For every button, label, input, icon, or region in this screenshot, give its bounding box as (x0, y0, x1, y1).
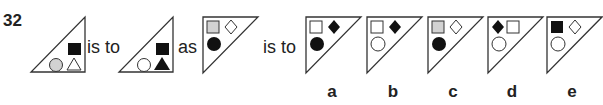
white-square-icon (371, 21, 383, 33)
black-circle-icon (310, 37, 324, 51)
query-figure (202, 16, 259, 74)
option-d-label[interactable]: d (502, 82, 522, 102)
option-e-label[interactable]: e (562, 82, 582, 102)
black-circle-icon (207, 37, 221, 51)
option-c-label[interactable]: c (443, 82, 463, 102)
option-c-figure[interactable] (427, 16, 484, 74)
black-square-icon (551, 21, 563, 33)
premise-figure-b (118, 16, 174, 73)
connector-is-to-2: is to (263, 38, 296, 56)
gray-square-icon (207, 21, 219, 33)
connector-is-to-1: is to (87, 38, 120, 56)
white-square-icon (507, 21, 519, 33)
option-a-figure[interactable] (305, 16, 362, 74)
black-circle-icon (432, 37, 446, 51)
connector-as: as (178, 38, 197, 56)
option-a-label[interactable]: a (322, 82, 342, 102)
black-square-icon (68, 43, 81, 55)
white-circle-icon (138, 59, 151, 72)
white-circle-icon (551, 37, 565, 51)
option-b-figure[interactable] (366, 16, 423, 74)
gray-circle-icon (50, 59, 63, 72)
white-circle-icon (371, 37, 385, 51)
premise-figure-a (30, 16, 86, 73)
option-d-figure[interactable] (487, 16, 544, 74)
white-circle-icon (492, 37, 506, 51)
option-e-figure[interactable] (546, 16, 603, 74)
question-number: 32 (3, 11, 22, 31)
option-b-label[interactable]: b (383, 82, 403, 102)
black-square-icon (156, 43, 169, 55)
white-square-icon (310, 21, 322, 33)
gray-square-icon (432, 21, 444, 33)
